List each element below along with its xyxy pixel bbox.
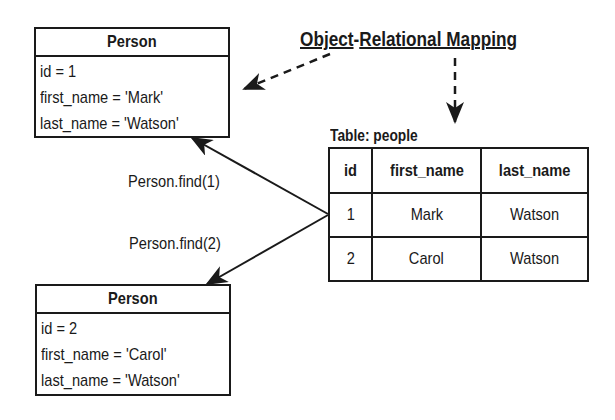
table-cell: 2 bbox=[329, 237, 372, 281]
title-object: Object bbox=[300, 28, 354, 50]
table-caption: Table: people bbox=[330, 127, 432, 145]
object-class-header: Person bbox=[36, 29, 228, 57]
table-cell: Carol bbox=[372, 237, 481, 281]
object-attribute: last_name = 'Watson' bbox=[41, 368, 225, 394]
find-2-label: Person.find(2) bbox=[129, 234, 236, 254]
table-cell: Watson bbox=[481, 237, 588, 281]
table-row: 2 Carol Watson bbox=[329, 237, 588, 281]
person-object-2: Person id = 2 first_name = 'Carol' last_… bbox=[35, 284, 231, 396]
table-row: 1 Mark Watson bbox=[329, 193, 588, 237]
table-header-row: id first_name last_name bbox=[329, 148, 588, 193]
column-header: id bbox=[329, 148, 372, 193]
object-attribute: id = 2 bbox=[41, 316, 225, 342]
find-1-label: Person.find(1) bbox=[128, 172, 235, 192]
table-cell: Watson bbox=[481, 193, 588, 237]
column-header: first_name bbox=[372, 148, 481, 193]
object-attribute: last_name = 'Watson' bbox=[40, 111, 224, 137]
object-class-header: Person bbox=[37, 286, 229, 314]
table-cell: 1 bbox=[329, 193, 372, 237]
diagram-title: Object-Relational Mapping bbox=[300, 27, 552, 51]
table-cell: Mark bbox=[372, 193, 481, 237]
object-attribute: first_name = 'Carol' bbox=[41, 342, 225, 368]
column-header: last_name bbox=[481, 148, 588, 193]
title-relational-mapping: Relational Mapping bbox=[359, 28, 517, 50]
person-object-1: Person id = 1 first_name = 'Mark' last_n… bbox=[34, 27, 230, 138]
object-attribute: first_name = 'Mark' bbox=[40, 85, 224, 111]
object-attribute: id = 1 bbox=[40, 59, 224, 85]
people-table: id first_name last_name 1 Mark Watson 2 … bbox=[328, 147, 589, 282]
dashed-arrow-to-object bbox=[244, 54, 330, 89]
